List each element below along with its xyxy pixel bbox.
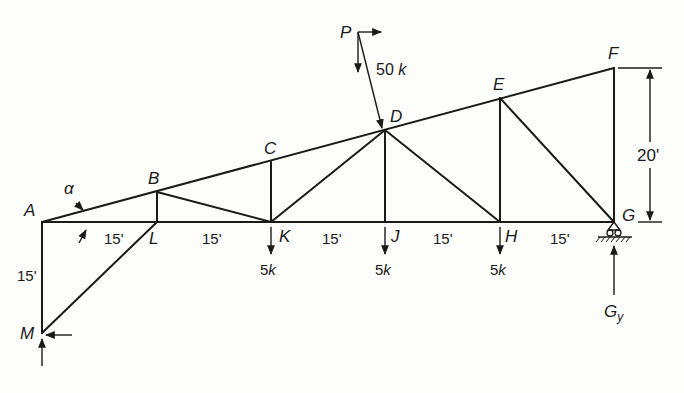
member-EG bbox=[500, 98, 614, 222]
load-label-J: 5k bbox=[375, 262, 391, 277]
support-G-icon bbox=[596, 222, 632, 242]
member-DH bbox=[385, 130, 500, 222]
joint-label-K: K bbox=[279, 228, 290, 245]
member-BK bbox=[157, 192, 271, 222]
dim-height-FG: 20' bbox=[637, 147, 659, 164]
dim-panel-LK: 15' bbox=[202, 231, 222, 246]
member-ML bbox=[42, 222, 157, 333]
load-label-P: P bbox=[340, 24, 351, 41]
joint-label-G: G bbox=[622, 207, 635, 224]
dim-height-AM: 15' bbox=[17, 268, 37, 283]
dim-panel-KJ: 15' bbox=[322, 231, 342, 246]
load-arrow-P bbox=[358, 32, 382, 128]
joint-label-B: B bbox=[148, 170, 159, 187]
load-label-50k: 50 k bbox=[376, 62, 406, 78]
alpha-arrow-top bbox=[76, 203, 83, 210]
joint-label-F: F bbox=[608, 45, 618, 62]
joint-label-H: H bbox=[505, 228, 517, 245]
joint-label-J: J bbox=[391, 228, 400, 245]
joint-label-A: A bbox=[24, 202, 35, 219]
member-KD bbox=[271, 130, 385, 222]
dim-panel-HG: 15' bbox=[550, 231, 570, 246]
joint-label-L: L bbox=[149, 230, 158, 247]
joint-label-M: M bbox=[20, 325, 34, 342]
top-chord bbox=[42, 68, 614, 222]
joint-label-D: D bbox=[390, 108, 402, 125]
dim-panel-AL: 15' bbox=[104, 231, 124, 246]
reaction-label-Gy: Gy bbox=[604, 303, 623, 323]
angle-label-alpha: α bbox=[64, 180, 74, 197]
alpha-arrow-bottom bbox=[79, 230, 86, 243]
joint-label-C: C bbox=[264, 140, 276, 157]
load-label-K: 5k bbox=[260, 262, 276, 277]
load-label-H: 5k bbox=[490, 262, 506, 277]
joint-label-E: E bbox=[493, 76, 504, 93]
truss-drawing bbox=[0, 0, 684, 393]
dim-panel-JH: 15' bbox=[433, 231, 453, 246]
truss-diagram: A B C D E F G H J K L M α 15' 15' 15' 15… bbox=[0, 0, 684, 393]
